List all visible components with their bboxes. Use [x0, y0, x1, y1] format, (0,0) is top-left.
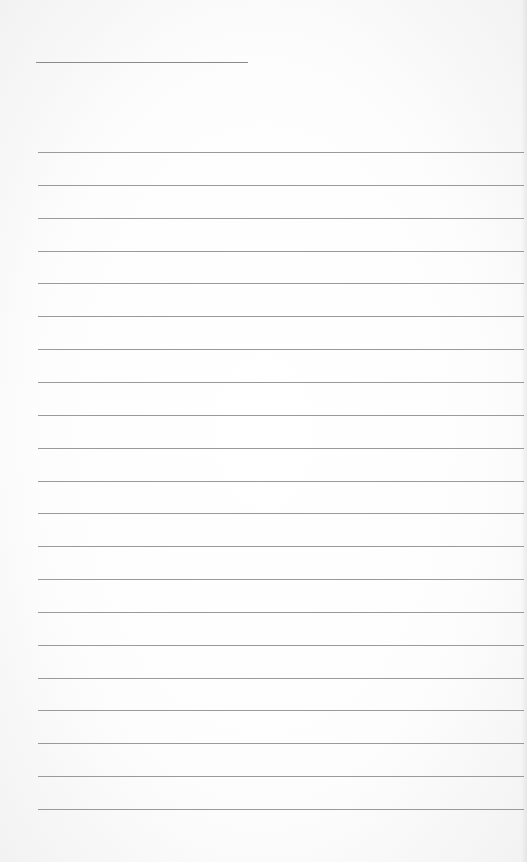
ruled-line	[38, 251, 524, 252]
ruled-line	[38, 710, 524, 711]
ruled-line	[38, 152, 524, 153]
ruled-line	[38, 612, 524, 613]
ruled-line	[38, 513, 524, 514]
page-edge-shadow	[521, 0, 527, 862]
ruled-line	[38, 349, 524, 350]
ruled-line	[38, 546, 524, 547]
ruled-line	[38, 481, 524, 482]
ruled-line	[38, 809, 524, 810]
ruled-line	[38, 283, 524, 284]
ruled-line	[38, 776, 524, 777]
ruled-line	[38, 579, 524, 580]
lined-paper	[0, 0, 527, 862]
ruled-line	[38, 185, 524, 186]
ruled-line	[38, 415, 524, 416]
ruled-line	[38, 316, 524, 317]
ruled-line	[38, 218, 524, 219]
title-line	[36, 62, 248, 63]
ruled-line	[38, 448, 524, 449]
ruled-line	[38, 645, 524, 646]
ruled-line	[38, 743, 524, 744]
ruled-line	[38, 678, 524, 679]
ruled-line	[38, 382, 524, 383]
